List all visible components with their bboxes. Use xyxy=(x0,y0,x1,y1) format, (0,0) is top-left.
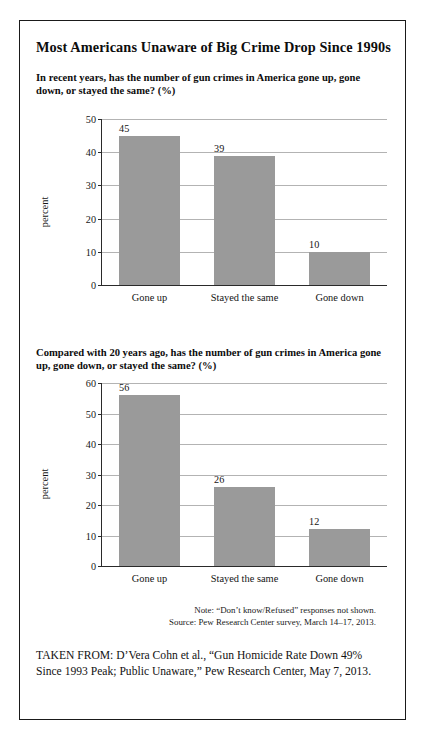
bar: 10 xyxy=(309,252,370,285)
bar-group: 12Gone down xyxy=(292,383,387,566)
y-axis-tick-label: 50 xyxy=(86,114,96,125)
y-axis-tick-label: 10 xyxy=(86,530,96,541)
x-axis-category-label: Stayed the same xyxy=(211,292,279,303)
bar-value-label: 56 xyxy=(119,382,129,393)
note-text: Note: “Don’t know/Refused” responses not… xyxy=(36,605,376,617)
note-source-block: Note: “Don’t know/Refused” responses not… xyxy=(36,605,388,628)
source-text: Source: Pew Research Center survey, Marc… xyxy=(36,617,376,629)
bar-value-label: 26 xyxy=(214,474,224,485)
chart-1-plot-area: 0102030405045Gone up39Stayed the same10G… xyxy=(101,119,387,286)
x-axis-category-label: Gone down xyxy=(315,573,363,584)
bar-value-label: 45 xyxy=(119,123,129,134)
figure-title: Most Americans Unaware of Big Crime Drop… xyxy=(36,39,396,56)
y-axis-tick-label: 20 xyxy=(86,213,96,224)
chart-2-y-axis-label: percent xyxy=(39,469,50,500)
y-axis-tick-label: 20 xyxy=(86,500,96,511)
bars-layer: 45Gone up39Stayed the same10Gone down xyxy=(102,119,387,285)
bar-group: 56Gone up xyxy=(102,383,197,566)
x-axis-category-label: Stayed the same xyxy=(211,573,279,584)
y-axis-tick-label: 40 xyxy=(86,147,96,158)
bar: 39 xyxy=(214,156,275,285)
bar-group: 10Gone down xyxy=(292,119,387,285)
bars-layer: 56Gone up26Stayed the same12Gone down xyxy=(102,383,387,566)
bar-group: 45Gone up xyxy=(102,119,197,285)
bar-value-label: 12 xyxy=(309,516,319,527)
bar-group: 26Stayed the same xyxy=(197,383,292,566)
bar: 56 xyxy=(119,395,180,566)
y-axis-tick-label: 30 xyxy=(86,469,96,480)
y-axis-tick-mark xyxy=(98,566,102,567)
bar: 45 xyxy=(119,136,180,285)
chart-2-plot-area: 010203040506056Gone up26Stayed the same1… xyxy=(101,383,387,567)
chart-1-y-axis-label: percent xyxy=(39,196,50,227)
taken-from-citation: TAKEN FROM: D’Vera Cohn et al., “Gun Hom… xyxy=(36,648,388,680)
x-axis-category-label: Gone down xyxy=(315,292,363,303)
x-axis-category-label: Gone up xyxy=(132,292,168,303)
bar-value-label: 39 xyxy=(214,143,224,154)
figure-container: Most Americans Unaware of Big Crime Drop… xyxy=(19,20,406,720)
y-axis-tick-label: 50 xyxy=(86,408,96,419)
bar-group: 39Stayed the same xyxy=(197,119,292,285)
y-axis-tick-label: 30 xyxy=(86,180,96,191)
y-axis-tick-label: 0 xyxy=(91,280,96,291)
bar-value-label: 10 xyxy=(309,239,319,250)
chart-2-question: Compared with 20 years ago, has the numb… xyxy=(36,346,388,372)
y-axis-tick-label: 0 xyxy=(91,561,96,572)
y-axis-tick-label: 40 xyxy=(86,439,96,450)
bar: 12 xyxy=(309,529,370,566)
bar: 26 xyxy=(214,487,275,566)
chart-2: percent 010203040506056Gone up26Stayed t… xyxy=(20,373,407,595)
y-axis-tick-label: 10 xyxy=(86,246,96,257)
chart-1: percent 0102030405045Gone up39Stayed the… xyxy=(20,109,407,314)
chart-1-question: In recent years, has the number of gun c… xyxy=(36,71,388,97)
x-axis-category-label: Gone up xyxy=(132,573,168,584)
y-axis-tick-mark xyxy=(98,285,102,286)
y-axis-tick-label: 60 xyxy=(86,378,96,389)
